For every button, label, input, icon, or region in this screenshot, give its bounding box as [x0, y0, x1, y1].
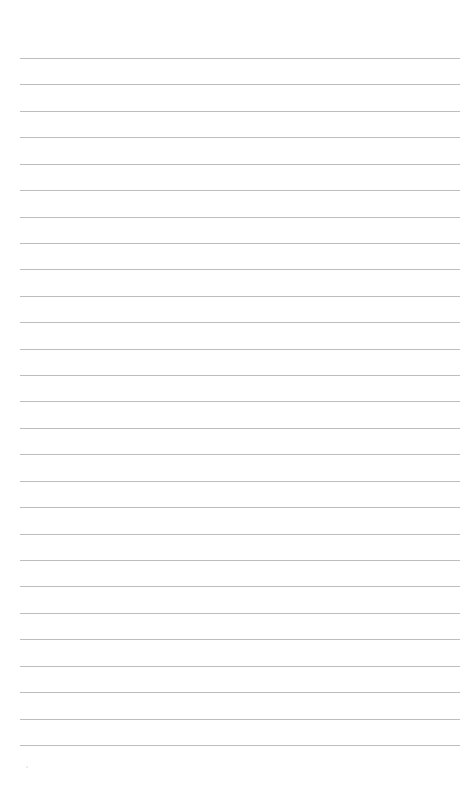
- ruled-line: [20, 507, 460, 508]
- ruled-line: [20, 190, 460, 191]
- ruled-line: [20, 428, 460, 429]
- ruled-line: [20, 375, 460, 376]
- ruled-line: [20, 217, 460, 218]
- ruled-line: [20, 666, 460, 667]
- ruled-line: [20, 639, 460, 640]
- ruled-line: [20, 296, 460, 297]
- ruled-line: [20, 719, 460, 720]
- ruled-line: [20, 84, 460, 85]
- ruled-line: [20, 349, 460, 350]
- ruled-line: [20, 269, 460, 270]
- ruled-line: [20, 692, 460, 693]
- ruled-line: [20, 401, 460, 402]
- ruled-line: [20, 613, 460, 614]
- paper-speck: [26, 766, 28, 768]
- ruled-line: [20, 58, 460, 59]
- ruled-line: [20, 745, 460, 746]
- ruled-line: [20, 322, 460, 323]
- ruled-line: [20, 164, 460, 165]
- lined-paper-page: [0, 0, 471, 793]
- ruled-line: [20, 454, 460, 455]
- ruled-line: [20, 111, 460, 112]
- ruled-line: [20, 137, 460, 138]
- ruled-line: [20, 534, 460, 535]
- ruled-line: [20, 481, 460, 482]
- ruled-line: [20, 586, 460, 587]
- ruled-line: [20, 243, 460, 244]
- ruled-line: [20, 560, 460, 561]
